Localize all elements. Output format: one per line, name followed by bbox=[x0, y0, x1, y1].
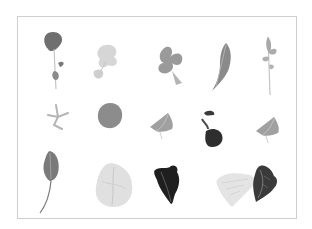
leaf-dandelion bbox=[210, 41, 234, 93]
leaf-butterhead-pale bbox=[92, 161, 136, 209]
leaf-dark-romaine bbox=[153, 164, 183, 206]
leaf-round bbox=[96, 102, 124, 130]
leaf-pea-shoot bbox=[40, 31, 70, 93]
leaf-frisee-sprig bbox=[90, 41, 124, 83]
leaf-lettuce-tip-1 bbox=[148, 111, 176, 141]
leaf-spinach-long-stem bbox=[38, 149, 64, 215]
photo-frame bbox=[17, 16, 297, 219]
leaf-herb-sprig bbox=[44, 103, 70, 131]
leaf-arugula bbox=[258, 35, 280, 97]
leaf-dark-curly bbox=[250, 164, 280, 204]
leaf-lettuce-tip-2 bbox=[254, 115, 282, 145]
leaf-dark-red-with-sprig bbox=[198, 109, 226, 149]
leaf-oak-lobed bbox=[154, 45, 188, 89]
